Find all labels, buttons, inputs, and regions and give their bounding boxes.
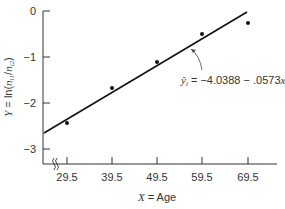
svg-text:0: 0	[30, 5, 36, 17]
svg-text:−3: −3	[23, 143, 36, 155]
data-point	[200, 32, 204, 36]
y-axis-title: Y = ln(ni1/ni2)	[2, 57, 16, 117]
data-point	[65, 121, 69, 125]
data-points	[65, 21, 250, 125]
svg-text:−2: −2	[23, 97, 36, 109]
svg-text:−1: −1	[23, 51, 36, 63]
x-tick-labels: 29.5 39.5 49.5 59.5 69.5	[56, 171, 258, 183]
svg-text:69.5: 69.5	[237, 171, 258, 183]
x-ticks	[67, 157, 248, 164]
svg-text:49.5: 49.5	[146, 171, 167, 183]
data-point	[110, 86, 114, 90]
regression-line	[44, 12, 247, 133]
svg-text:59.5: 59.5	[191, 171, 212, 183]
data-point	[246, 21, 250, 25]
y-tick-labels: 0 −1 −2 −3	[23, 5, 36, 155]
svg-text:29.5: 29.5	[56, 171, 77, 183]
equation-label: ŷi = −4.0388 − .0573x	[180, 74, 285, 88]
arrowhead-icon	[191, 49, 196, 53]
y-ticks	[43, 11, 50, 149]
x-axis-title: X = Age	[137, 191, 176, 203]
data-point	[155, 60, 159, 64]
chart: 0 −1 −2 −3 29.5 39.5 49.5 59.5 69.5 X = …	[0, 0, 285, 209]
svg-text:39.5: 39.5	[101, 171, 122, 183]
